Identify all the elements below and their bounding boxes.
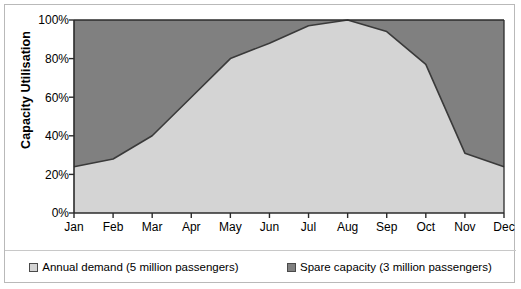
y-tick-60: 60% <box>45 91 69 105</box>
x-tick-nov: Nov <box>444 220 486 234</box>
y-tick-100: 100% <box>38 13 69 27</box>
x-tick-feb: Feb <box>92 220 134 234</box>
x-tick-aug: Aug <box>327 220 369 234</box>
chart-plot-container: Capacity Utilisation 100% 80% 60% 40% 20… <box>5 5 516 250</box>
y-axis-tick-labels: 100% 80% 60% 40% 20% 0% <box>17 5 69 250</box>
y-tick-40: 40% <box>45 129 69 143</box>
x-tick-sep: Sep <box>366 220 408 234</box>
x-tick-oct: Oct <box>405 220 447 234</box>
x-tick-mar: Mar <box>131 220 173 234</box>
area-chart-plot <box>5 5 516 250</box>
y-tick-0: 0% <box>52 206 69 220</box>
chart-frame: Capacity Utilisation 100% 80% 60% 40% 20… <box>4 4 515 283</box>
x-tick-jan: Jan <box>53 220 95 234</box>
x-tick-jun: Jun <box>248 220 290 234</box>
legend-item-annual-demand[interactable]: Annual demand (5 million passengers) <box>29 261 238 273</box>
x-tick-apr: Apr <box>170 220 212 234</box>
legend-swatch-icon-annual-demand <box>29 263 38 272</box>
x-tick-may: May <box>209 220 251 234</box>
y-tick-20: 20% <box>45 168 69 182</box>
chart-legend: Annual demand (5 million passengers) Spa… <box>5 250 516 283</box>
x-tick-dec: Dec <box>483 220 521 234</box>
x-axis-tick-labels: JanFebMarAprMayJunJulAugSepOctNovDec <box>5 220 516 242</box>
legend-item-spare-capacity[interactable]: Spare capacity (3 million passengers) <box>287 261 492 273</box>
y-tick-80: 80% <box>45 52 69 66</box>
legend-label-annual-demand: Annual demand (5 million passengers) <box>42 261 238 273</box>
legend-label-spare-capacity: Spare capacity (3 million passengers) <box>300 261 492 273</box>
legend-swatch-icon-spare-capacity <box>287 263 296 272</box>
x-tick-jul: Jul <box>288 220 330 234</box>
